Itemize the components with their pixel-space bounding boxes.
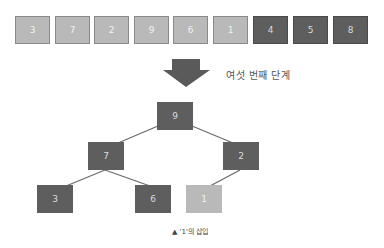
- tree-node-left-left: 3: [37, 185, 73, 213]
- tree-node-left-right: 6: [135, 185, 171, 213]
- tree-node-right: 2: [223, 142, 259, 170]
- tree-node-right-left: 1: [186, 185, 222, 213]
- step-label: 여섯 번째 단계: [226, 67, 290, 82]
- figure-caption: ▲ '1'의 삽입: [172, 226, 208, 236]
- tree-node-root: 9: [157, 102, 193, 130]
- down-arrow-icon: [163, 59, 210, 87]
- tree-node-left: 7: [88, 142, 124, 170]
